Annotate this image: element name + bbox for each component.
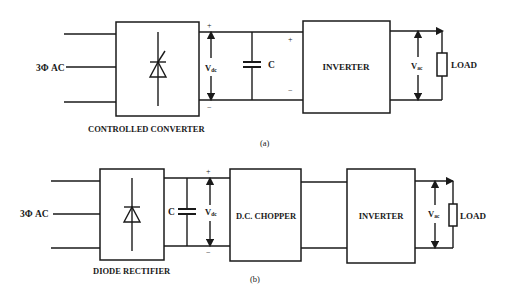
load-label-a: LOAD bbox=[451, 60, 478, 70]
load-resistor-b bbox=[449, 204, 457, 226]
vac-label-b: Vac bbox=[428, 209, 440, 219]
converter-label: CONTROLLED CONVERTER bbox=[88, 124, 205, 134]
inverter-label-a: INVERTER bbox=[322, 62, 370, 72]
capacitor-icon-a bbox=[243, 32, 261, 100]
vdc-minus-b: − bbox=[206, 248, 211, 257]
capacitor-label-b: C bbox=[168, 207, 175, 217]
chopper-label: D.C. CHOPPER bbox=[236, 211, 297, 221]
vdc-label-a: Vdc bbox=[205, 63, 217, 73]
vdc-plus-a: + bbox=[207, 21, 212, 30]
load-resistor-a bbox=[437, 53, 447, 76]
diagram-a: 3Φ AC CONTROLLED CONVERTER + − Vdc C + bbox=[36, 21, 478, 148]
diagram-b: 3Φ AC DIODE RECTIFIER C + − Vdc D.C. CHO… bbox=[20, 167, 487, 284]
load-label-b: LOAD bbox=[460, 211, 487, 221]
vdc-label-b: Vdc bbox=[205, 207, 217, 217]
ac-input-lines-a bbox=[64, 34, 116, 102]
capacitor-label-a: C bbox=[268, 60, 275, 70]
drive-block-diagrams: 3Φ AC CONTROLLED CONVERTER + − Vdc C + bbox=[0, 0, 505, 295]
input-label-b: 3Φ AC bbox=[20, 209, 49, 219]
caption-b: (b) bbox=[250, 274, 260, 284]
rectifier-label: DIODE RECTIFIER bbox=[93, 266, 171, 276]
input-label-a: 3Φ AC bbox=[36, 63, 65, 73]
inverter-plus-a: + bbox=[288, 35, 293, 44]
vdc-plus-b: + bbox=[206, 167, 211, 176]
caption-a: (a) bbox=[260, 138, 270, 148]
ac-input-lines-b bbox=[51, 181, 100, 248]
vdc-minus-a: − bbox=[207, 103, 212, 112]
inverter-label-b: INVERTER bbox=[359, 211, 404, 221]
capacitor-icon-b bbox=[178, 178, 196, 246]
inverter-minus-a: − bbox=[288, 86, 293, 95]
vac-label-a: Vac bbox=[411, 61, 423, 71]
